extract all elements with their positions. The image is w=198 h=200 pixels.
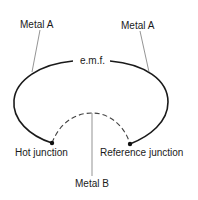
hot-junction-label: Hot junction bbox=[15, 148, 68, 158]
metal-a-wire-right bbox=[110, 61, 168, 144]
reference-junction-dot bbox=[128, 142, 132, 146]
metal-a-left-leader bbox=[32, 30, 40, 72]
reference-junction-label: Reference junction bbox=[100, 148, 183, 158]
metal-b-label: Metal B bbox=[75, 179, 109, 189]
thermocouple-diagram bbox=[0, 0, 198, 200]
metal-a-left-label: Metal A bbox=[20, 20, 53, 30]
metal-a-wire-left bbox=[14, 61, 73, 143]
emf-label: e.m.f. bbox=[80, 56, 105, 66]
metal-b-wire bbox=[52, 113, 130, 144]
metal-a-right-leader bbox=[140, 31, 149, 72]
hot-junction-dot bbox=[50, 141, 54, 145]
metal-a-right-label: Metal A bbox=[121, 21, 154, 31]
